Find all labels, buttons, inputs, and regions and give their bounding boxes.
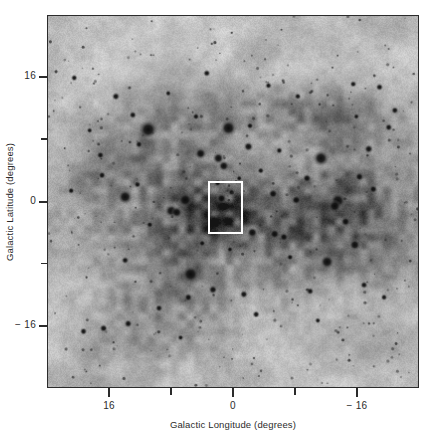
- sky-map-figure: 160− 16 160− 16 Galactic Longitude (degr…: [0, 0, 441, 442]
- y-axis-minor-tick: [41, 263, 48, 265]
- sky-survey-image: [48, 16, 418, 387]
- sky-image-plot-area[interactable]: [47, 15, 419, 388]
- x-axis-minor-tick: [294, 388, 296, 395]
- y-axis-title: Galactic Latitude (degrees): [4, 142, 15, 260]
- y-axis-tick: [39, 325, 48, 327]
- y-axis-tick: [39, 201, 48, 203]
- y-axis-title-wrap: Galactic Latitude (degrees): [0, 15, 18, 388]
- x-axis-tick-label: − 16: [332, 400, 382, 411]
- x-axis-tick-label: 0: [208, 400, 258, 411]
- y-axis-tick: [39, 76, 48, 78]
- x-axis-minor-tick: [170, 388, 172, 395]
- x-axis-title: Galactic Longitude (degrees): [47, 419, 419, 430]
- x-axis-tick: [108, 388, 110, 397]
- y-axis-minor-tick: [41, 138, 48, 140]
- x-axis-tick: [356, 388, 358, 397]
- x-axis-tick: [232, 388, 234, 397]
- x-axis-tick-label: 16: [84, 400, 134, 411]
